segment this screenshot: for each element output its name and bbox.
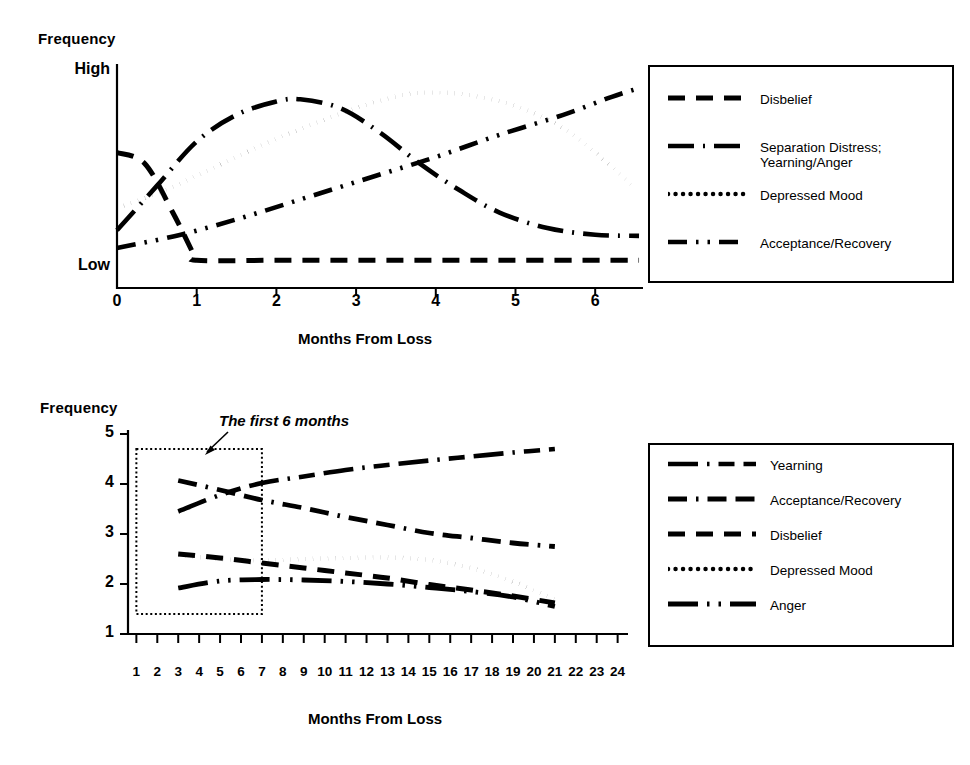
top-chart-ylabel: Frequency (38, 30, 116, 47)
legend-item-depressed-mood[interactable]: Depressed Mood (668, 187, 863, 203)
legend-label: Acceptance/Recovery (760, 235, 891, 251)
top-xtick-4: 4 (422, 292, 450, 310)
legend-swatch-long-dash-dot-dot-icon (668, 597, 756, 611)
bottom-chart-xtick-labels: 123456789101112131415161718192021222324 (120, 664, 630, 686)
top-xtick-6: 6 (581, 292, 609, 310)
legend-item-anger[interactable]: Anger (668, 597, 806, 613)
legend-label: Disbelief (760, 91, 812, 107)
legend-item-disbelief[interactable]: Disbelief (668, 91, 812, 107)
top-chart-xlabel: Months From Loss (165, 330, 565, 347)
top-xtick-3: 3 (342, 292, 370, 310)
figure-canvas: Frequency High Low 0123456 Months From L… (0, 0, 970, 765)
legend-swatch-dotted-icon (668, 187, 746, 201)
bottom-ytick-1: 1 (92, 623, 114, 641)
legend-swatch-long-dash-dot-icon (668, 139, 746, 153)
legend-item-yearning[interactable]: Yearning (668, 457, 823, 473)
legend-swatch-long-dash-dot-dash-icon (668, 457, 756, 471)
bottom-ytick-2: 2 (92, 573, 114, 591)
bottom-chart-ylabel: Frequency (40, 399, 118, 416)
legend-label: Depressed Mood (770, 562, 873, 578)
top-chart-ytick-low: Low (48, 256, 110, 274)
legend-item-acceptance-recovery[interactable]: Acceptance/Recovery (668, 492, 901, 508)
top-xtick-5: 5 (501, 292, 529, 310)
top-chart-plot (105, 60, 645, 310)
bottom-chart-legend[interactable]: YearningAcceptance/RecoveryDisbeliefDepr… (648, 443, 954, 647)
top-chart-xtick-labels: 0123456 (105, 292, 645, 314)
legend-item-separation-distress-yearning-anger[interactable]: Separation Distress; Yearning/Anger (668, 139, 882, 170)
series-depressed-mood (117, 93, 635, 208)
bottom-xtick-24: 24 (605, 664, 631, 679)
legend-swatch-dashed-icon (668, 527, 756, 541)
bottom-ytick-5: 5 (92, 423, 114, 441)
annotation-arrow-icon (196, 430, 236, 462)
first-6-months-box (136, 449, 262, 614)
bottom-chart-ytick-labels: 54321 (92, 425, 120, 655)
top-xtick-1: 1 (183, 292, 211, 310)
legend-item-acceptance-recovery[interactable]: Acceptance/Recovery (668, 235, 891, 251)
top-chart-ytick-high: High (48, 60, 110, 78)
legend-item-disbelief[interactable]: Disbelief (668, 527, 822, 543)
top-xtick-0: 0 (103, 292, 131, 310)
series-acceptance-recovery (117, 88, 639, 248)
bottom-ytick-3: 3 (92, 523, 114, 541)
legend-swatch-dashed-icon (668, 91, 746, 105)
legend-item-depressed-mood[interactable]: Depressed Mood (668, 562, 873, 578)
top-chart-legend[interactable]: DisbeliefSeparation Distress; Yearning/A… (648, 65, 954, 283)
bottom-chart-annotation: The first 6 months (219, 412, 349, 429)
legend-swatch-dotted-icon (668, 562, 756, 576)
top-xtick-2: 2 (262, 292, 290, 310)
bottom-chart-xlabel: Months From Loss (175, 710, 575, 727)
series-anger (178, 579, 555, 606)
legend-swatch-dash-dot-dash-icon (668, 492, 756, 506)
legend-label: Depressed Mood (760, 187, 863, 203)
series-separation-distress-yearning-anger (117, 99, 639, 236)
series-disbelief (117, 153, 639, 261)
legend-label: Anger (770, 597, 806, 613)
legend-label: Yearning (770, 457, 823, 473)
legend-label: Acceptance/Recovery (770, 492, 901, 508)
legend-label: Disbelief (770, 527, 822, 543)
legend-swatch-dash-dot-dot-icon (668, 235, 746, 249)
bottom-ytick-4: 4 (92, 473, 114, 491)
bottom-chart-plot (120, 430, 630, 655)
legend-label: Separation Distress; Yearning/Anger (760, 139, 882, 170)
